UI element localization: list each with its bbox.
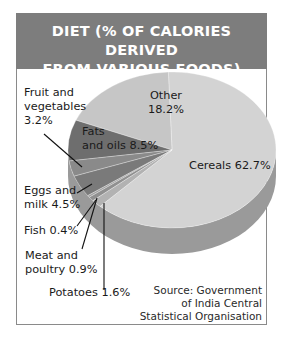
label-eggs-milk: Eggs and milk 4.5% [24, 184, 80, 212]
label-fruit-value: 3.2% [24, 114, 86, 128]
label-other-value: 18.2% [148, 103, 184, 117]
source-line-3: Statistical Organisation [140, 310, 262, 323]
label-fruit-line-2: vegetables [24, 100, 86, 114]
label-eggs-value: milk 4.5% [24, 198, 80, 212]
label-cereals: Cereals 62.7% [189, 159, 271, 173]
label-fruit-vegetables: Fruit and vegetables 3.2% [24, 86, 86, 128]
source-note: Source: Government of India Central Stat… [140, 284, 262, 323]
label-meat-line-1: Meat and [25, 249, 97, 263]
label-eggs-line-1: Eggs and [24, 184, 80, 198]
label-fats: Fats and oils 8.5% [82, 125, 158, 153]
label-other-name: Other [148, 89, 184, 103]
label-fats-value: and oils 8.5% [82, 139, 158, 153]
source-line-1: Source: Government [140, 284, 262, 297]
label-potatoes: Potatoes 1.6% [49, 286, 130, 300]
label-meat-value: poultry 0.9% [25, 263, 97, 277]
source-line-2: of India Central [140, 297, 262, 310]
label-fruit-line-1: Fruit and [24, 86, 86, 100]
label-other: Other 18.2% [148, 89, 184, 117]
label-meat-poultry: Meat and poultry 0.9% [25, 249, 97, 277]
label-fats-name: Fats [82, 125, 158, 139]
label-fish: Fish 0.4% [24, 224, 78, 238]
